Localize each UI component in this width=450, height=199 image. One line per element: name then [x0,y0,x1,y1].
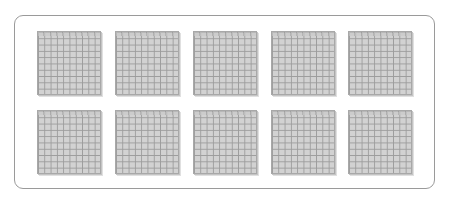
hundred-flat-block [271,110,335,174]
hundred-flat-block [37,110,101,174]
hundred-flat-block [193,31,257,95]
hundred-flat-block [115,110,179,174]
hundred-flat-block [115,31,179,95]
hundred-flat-block [37,31,101,95]
hundred-flat-block [271,31,335,95]
hundred-flat-block [348,110,412,174]
hundred-flat-block [348,31,412,95]
hundred-flat-block [193,110,257,174]
